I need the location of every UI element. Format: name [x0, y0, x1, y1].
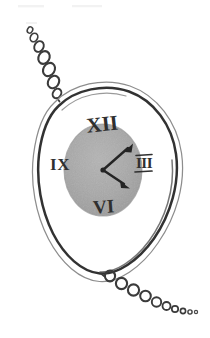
numeral-iii-bottom-bar — [135, 171, 152, 172]
chain-link — [163, 302, 171, 310]
chain-link — [180, 308, 185, 313]
sketch-canvas: XII III VI IX — [0, 0, 210, 338]
chain-link — [152, 297, 161, 306]
chain-link — [140, 291, 151, 302]
chain-link — [188, 310, 192, 314]
numeral-iii: III — [136, 155, 153, 171]
chain-bottom — [101, 271, 198, 315]
hand-pivot — [100, 167, 105, 172]
chain-link — [194, 310, 197, 313]
chain-link — [116, 278, 127, 289]
numeral-vi: VI — [92, 195, 115, 217]
chain-link — [128, 284, 139, 295]
chain-top — [26, 26, 63, 102]
paper-artifacts — [18, 5, 102, 24]
chain-link — [172, 306, 178, 312]
numeral-xii: XII — [85, 110, 119, 137]
watch-case: XII III VI IX — [32, 82, 182, 282]
pocket-watch-drawing: XII III VI IX — [0, 0, 210, 338]
chain-link — [26, 26, 34, 34]
numeral-ix: IX — [50, 155, 70, 174]
numeral-iii-top-bar — [136, 155, 152, 156]
